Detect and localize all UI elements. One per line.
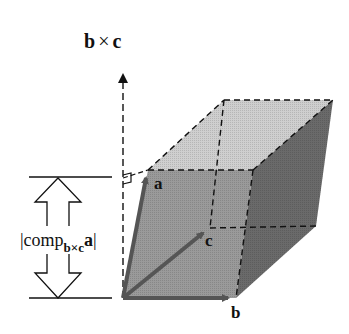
label-c: c	[205, 231, 213, 250]
label-b: b	[231, 303, 240, 322]
label-b-cross-c: b×c	[84, 30, 121, 52]
right-angle-marker	[123, 173, 131, 184]
label-a: a	[154, 174, 163, 193]
parallelepiped-diagram: b×c a b c |compb×ca|	[0, 0, 349, 334]
